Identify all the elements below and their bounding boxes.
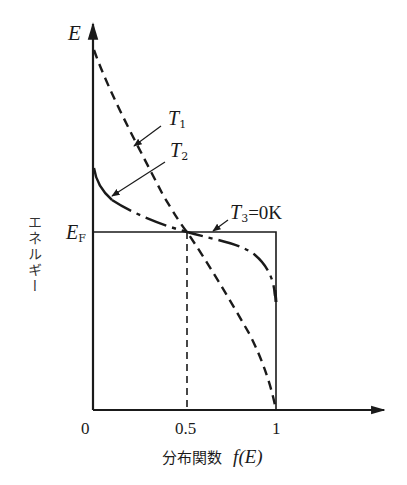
t1-sub: 1 <box>179 118 186 131</box>
t3-rest: =0K <box>248 202 282 223</box>
x-tick-1: 1 <box>272 420 281 437</box>
t3-label: T3=0K <box>230 202 282 224</box>
x-axis-title: 分布関数 f(E) <box>162 447 263 466</box>
t1-main: T <box>168 107 179 129</box>
t1-leader <box>134 126 161 146</box>
t2-main: T <box>170 139 181 161</box>
t1-curve <box>94 50 276 410</box>
ef-sub: F <box>78 232 86 245</box>
t1-label: T1 <box>168 108 186 130</box>
ef-main: E <box>66 221 78 243</box>
t3-leader <box>213 220 228 231</box>
t2-curve-end <box>275 290 276 302</box>
t3-step-curve <box>93 232 276 410</box>
t3-main: T <box>230 201 241 223</box>
x-tick-0-5: 0.5 <box>175 420 196 437</box>
t2-leader <box>112 162 165 196</box>
t2-curve-solid <box>94 168 112 200</box>
x-title-jp: 分布関数 <box>162 449 222 467</box>
x-tick-0: 0 <box>81 420 90 437</box>
t2-label: T2 <box>170 140 188 162</box>
t2-sub: 2 <box>181 150 188 163</box>
x-title-arg: (E) <box>238 446 262 467</box>
chart-canvas <box>0 0 407 485</box>
y-axis-symbol: E <box>68 23 81 44</box>
y-axis-title: エネルギー <box>28 215 44 295</box>
fermi-energy-label: EF <box>66 222 86 244</box>
